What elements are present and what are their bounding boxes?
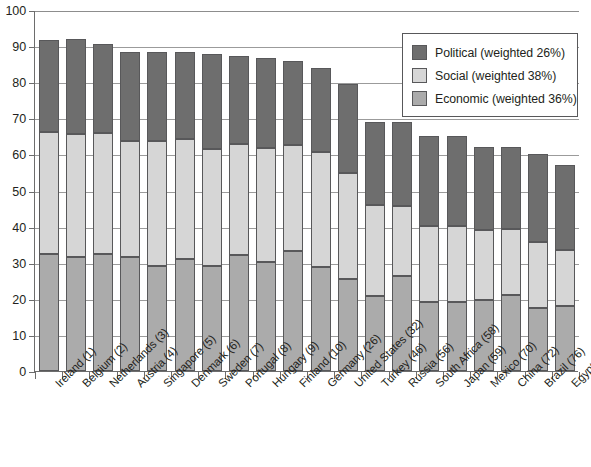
x-axis-label-3: Netherlands (3) xyxy=(107,381,115,389)
x-axis-label-14: Russia (56) xyxy=(406,381,414,389)
x-axis-label-19: Brazil (76) xyxy=(542,381,550,389)
chart-legend: Political (weighted 26%) Social (weighte… xyxy=(402,33,578,117)
x-axis-label-18: China (72) xyxy=(515,381,523,389)
x-axis-label-8: Portugal (8) xyxy=(243,381,251,389)
x-axis-label-13: Turkey (46) xyxy=(379,381,387,389)
legend-item-political: Political (weighted 26%) xyxy=(412,41,577,64)
legend-item-economic: Economic (weighted 36%) xyxy=(412,87,577,110)
legend-label-social: Social (weighted 38%) xyxy=(435,69,556,83)
x-axis-label-5: Singapore (5) xyxy=(161,381,169,389)
legend-label-political: Political (weighted 26%) xyxy=(435,46,565,60)
x-axis-label-6: Denmark (6) xyxy=(189,381,197,389)
legend-swatch-political xyxy=(412,45,427,60)
x-axis-label-12: United States (32) xyxy=(352,381,360,389)
x-axis-label-2: Belgium (2) xyxy=(80,381,88,389)
legend-swatch-economic xyxy=(412,91,427,106)
x-axis-label-9: Hungary (9) xyxy=(270,381,278,389)
x-axis-label-17: Mexico (70) xyxy=(488,381,496,389)
x-axis-label-20: Egypt (85) xyxy=(569,381,577,389)
x-axis-label-11: Germany (26) xyxy=(325,381,333,389)
stacked-bar-chart: 0102030405060708090100 Ireland (1)Belgiu… xyxy=(0,0,591,467)
x-axis-label-16: Japan (59) xyxy=(461,381,469,389)
x-axis-label-10: Finland (10) xyxy=(297,381,305,389)
legend-item-social: Social (weighted 38%) xyxy=(412,64,577,87)
x-axis-label-7: Sweden (7) xyxy=(216,381,224,389)
legend-label-economic: Economic (weighted 36%) xyxy=(435,92,577,106)
x-axis-label-4: Austria (4) xyxy=(134,381,142,389)
legend-swatch-social xyxy=(412,68,427,83)
x-axis-label-15: South Africa (58) xyxy=(433,381,441,389)
x-axis-label-1: Ireland (1) xyxy=(53,381,61,389)
